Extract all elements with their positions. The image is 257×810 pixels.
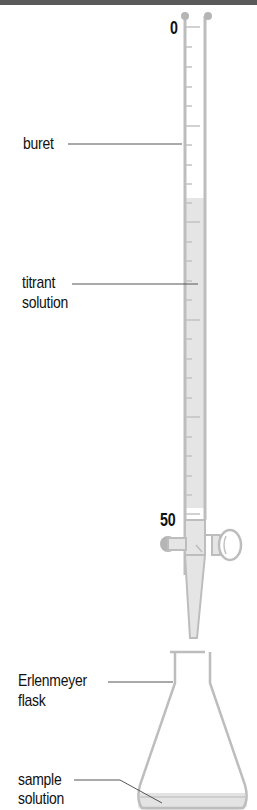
buret-lip-right xyxy=(204,12,212,20)
leader-lines xyxy=(68,144,198,803)
titrant-liquid xyxy=(185,198,204,508)
buret-tip xyxy=(185,555,205,638)
buret-lip-left xyxy=(181,12,189,20)
scale-mark-zero: 0 xyxy=(170,18,178,37)
scale-mark-fifty: 50 xyxy=(160,510,175,529)
stopcock-handle xyxy=(219,530,241,560)
stopcock-body xyxy=(185,520,220,555)
label-sample-line1: sample xyxy=(18,770,61,789)
label-flask-line1: Erlenmeyer xyxy=(18,671,87,690)
label-flask-line2: flask xyxy=(18,691,45,710)
label-sample-line2: solution xyxy=(18,789,64,808)
label-titrant-line1: titrant xyxy=(22,273,55,292)
label-titrant-line2: solution xyxy=(22,293,68,312)
label-buret: buret xyxy=(23,134,54,153)
erlenmeyer-flask xyxy=(138,652,246,808)
